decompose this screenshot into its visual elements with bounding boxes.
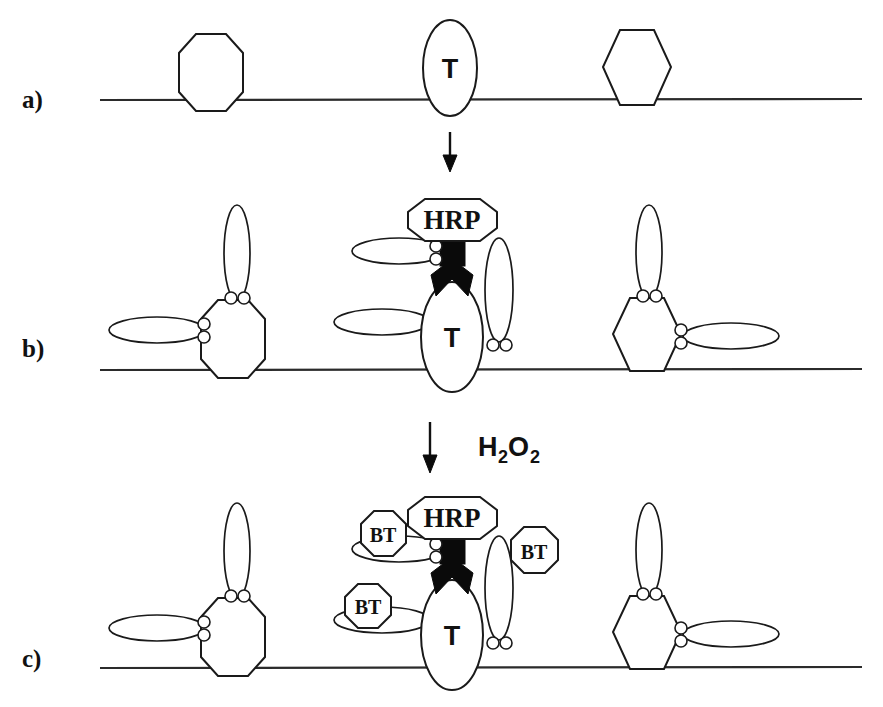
immunoassay-scheme-svg: a) T b): [0, 0, 883, 707]
figure-canvas: a) T b): [0, 0, 883, 707]
panel-a: a) T: [22, 20, 862, 116]
complex-center-b: T HRP: [334, 199, 513, 392]
complex-left-c: [109, 503, 265, 676]
complex-left-b: [109, 205, 265, 378]
panel-c-label: c): [22, 645, 41, 673]
hrp-enzyme-label-b: HRP: [424, 205, 481, 235]
arrow-a-to-b: [443, 132, 457, 172]
antibody-ellipse-vertical-right-hex-b: [636, 205, 662, 299]
h2o2-o-glyph: O: [508, 432, 529, 462]
panel-c: c): [22, 497, 862, 690]
arrow-a-to-b-head: [443, 155, 457, 172]
arrow-b-to-c-head: [423, 455, 437, 473]
elongated-octagon-protein-b: [201, 300, 265, 378]
arrow-b-to-c: H 2 O 2: [423, 422, 540, 473]
antibody-ellipse-horizontal-right-hex-c: [683, 621, 779, 647]
panel-a-label: a): [22, 86, 43, 114]
elongated-octagon-protein-a: [179, 34, 243, 111]
target-analyte-label-c: T: [444, 621, 461, 651]
reagent-formula-h2o2: H 2 O 2: [478, 432, 540, 467]
h2o2-second-subscript: 2: [530, 447, 540, 467]
bt-deposit-label-3: BT: [355, 596, 382, 618]
antibody-ellipse-horizontal-right-hex-b: [683, 323, 779, 349]
panel-b: b): [22, 199, 862, 392]
h2o2-h-glyph: H: [478, 432, 498, 462]
hrp-enzyme-label-c: HRP: [424, 503, 481, 533]
antibody-ellipse-vertical-right-c: [485, 536, 513, 640]
complex-right-b: [613, 205, 779, 371]
antibody-ellipse-horizontal-left-b: [109, 317, 205, 343]
antibody-ellipse-vertical-right-hex-c: [636, 503, 662, 597]
hexagon-protein-a: [603, 30, 671, 105]
antibody-ellipse-vertical-left-b: [224, 205, 250, 301]
bt-deposit-label-2: BT: [521, 541, 548, 563]
antibody-ellipse-vertical-right-b: [485, 238, 513, 342]
complex-right-c: [613, 503, 779, 669]
bt-deposit-label-1: BT: [370, 524, 397, 546]
hexagon-protein-c: [613, 596, 681, 669]
panel-b-label: b): [22, 335, 44, 363]
complex-center-c: T HRP BT BT BT: [334, 497, 558, 690]
elongated-octagon-protein-c: [201, 598, 265, 676]
h2o2-first-subscript: 2: [498, 447, 508, 467]
antibody-ellipse-horizontal-left-c: [109, 615, 205, 641]
antibody-ellipse-vertical-left-c: [224, 503, 250, 599]
antibody-ellipse-horizontal-lower-b: [334, 309, 430, 335]
hexagon-protein-b: [613, 298, 681, 371]
target-analyte-label-b: T: [444, 323, 461, 353]
target-analyte-label-a: T: [442, 54, 459, 84]
